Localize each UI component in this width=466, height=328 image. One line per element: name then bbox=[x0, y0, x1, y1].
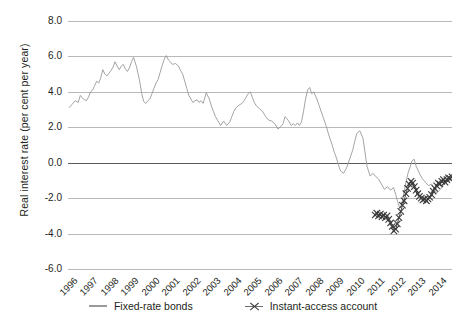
legend-item-instant-access-account[interactable]: Instant-access account bbox=[245, 300, 377, 312]
gridline bbox=[68, 269, 452, 270]
chart-figure: Real interest rate (per cent per year) 8… bbox=[0, 0, 466, 328]
y-tick-label: 8.0 bbox=[14, 15, 62, 26]
y-tick-label: -2.0 bbox=[14, 192, 62, 203]
y-tick-label: 6.0 bbox=[14, 50, 62, 61]
plot-area bbox=[68, 21, 452, 269]
series-markers bbox=[372, 174, 452, 234]
y-tick-label: 0.0 bbox=[14, 157, 62, 168]
series-line bbox=[69, 56, 452, 208]
legend-label: Instant-access account bbox=[270, 300, 377, 312]
x-marker-icon bbox=[245, 301, 263, 311]
y-tick-label: 2.0 bbox=[14, 121, 62, 132]
y-tick-label: -4.0 bbox=[14, 228, 62, 239]
legend-item-fixed-rate-bonds[interactable]: Fixed-rate bonds bbox=[89, 300, 193, 312]
chart-legend: Fixed-rate bonds Instant-access account bbox=[0, 300, 466, 312]
legend-label: Fixed-rate bonds bbox=[114, 300, 193, 312]
line-icon bbox=[89, 305, 107, 306]
series-canvas bbox=[68, 21, 452, 269]
y-tick-label: 4.0 bbox=[14, 86, 62, 97]
y-tick-label: -6.0 bbox=[14, 263, 62, 274]
